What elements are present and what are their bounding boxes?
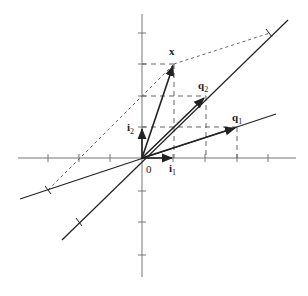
vectors [142, 66, 235, 158]
span-lines [20, 20, 288, 240]
vector-diagram: x q2 q1 i2 i1 0 [0, 0, 308, 296]
label-q1: q1 [232, 112, 242, 126]
diagram-canvas [0, 0, 308, 296]
q2-span-line [62, 20, 288, 240]
vector-x [142, 66, 173, 158]
label-i2-sub: 2 [130, 127, 134, 136]
vector-q1 [142, 128, 235, 158]
label-origin: 0 [146, 164, 152, 175]
label-i1-sub: 1 [172, 168, 176, 177]
label-q2-sub: 2 [204, 85, 208, 94]
label-q1-sub: 1 [238, 117, 242, 126]
label-x: x [169, 46, 175, 57]
label-i1: i1 [169, 163, 176, 177]
label-i2: i2 [127, 122, 134, 136]
label-q2: q2 [198, 80, 208, 94]
